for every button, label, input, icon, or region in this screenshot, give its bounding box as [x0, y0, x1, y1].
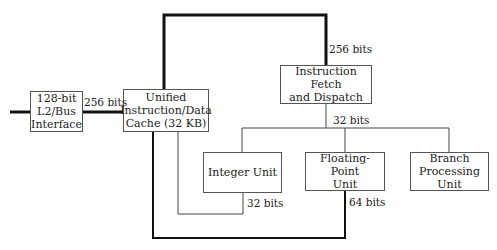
instruction-fetch-block: Instruction Fetch and Dispatch — [280, 65, 372, 104]
branch-processing-unit-block: Branch Processing Unit — [410, 152, 489, 191]
unified-cache-block: Unified Instruction/Data Cache (32 KB) — [123, 89, 209, 132]
integer-unit-block: Integer Unit — [203, 152, 282, 193]
cache-fetch-bus-label: 256 bits — [329, 43, 372, 55]
fpu-cache-bus-label: 64 bits — [349, 196, 385, 208]
floating-point-unit-block: Floating-Point Unit — [305, 152, 385, 191]
l2-cache-bus-label: 256 bits — [84, 96, 127, 108]
integer-cache-bus-label: 32 bits — [247, 197, 283, 209]
dispatch-bus-label: 32 bits — [333, 114, 369, 126]
l2-bus-interface-block: 128-bit L2/Bus Interface — [30, 91, 83, 132]
